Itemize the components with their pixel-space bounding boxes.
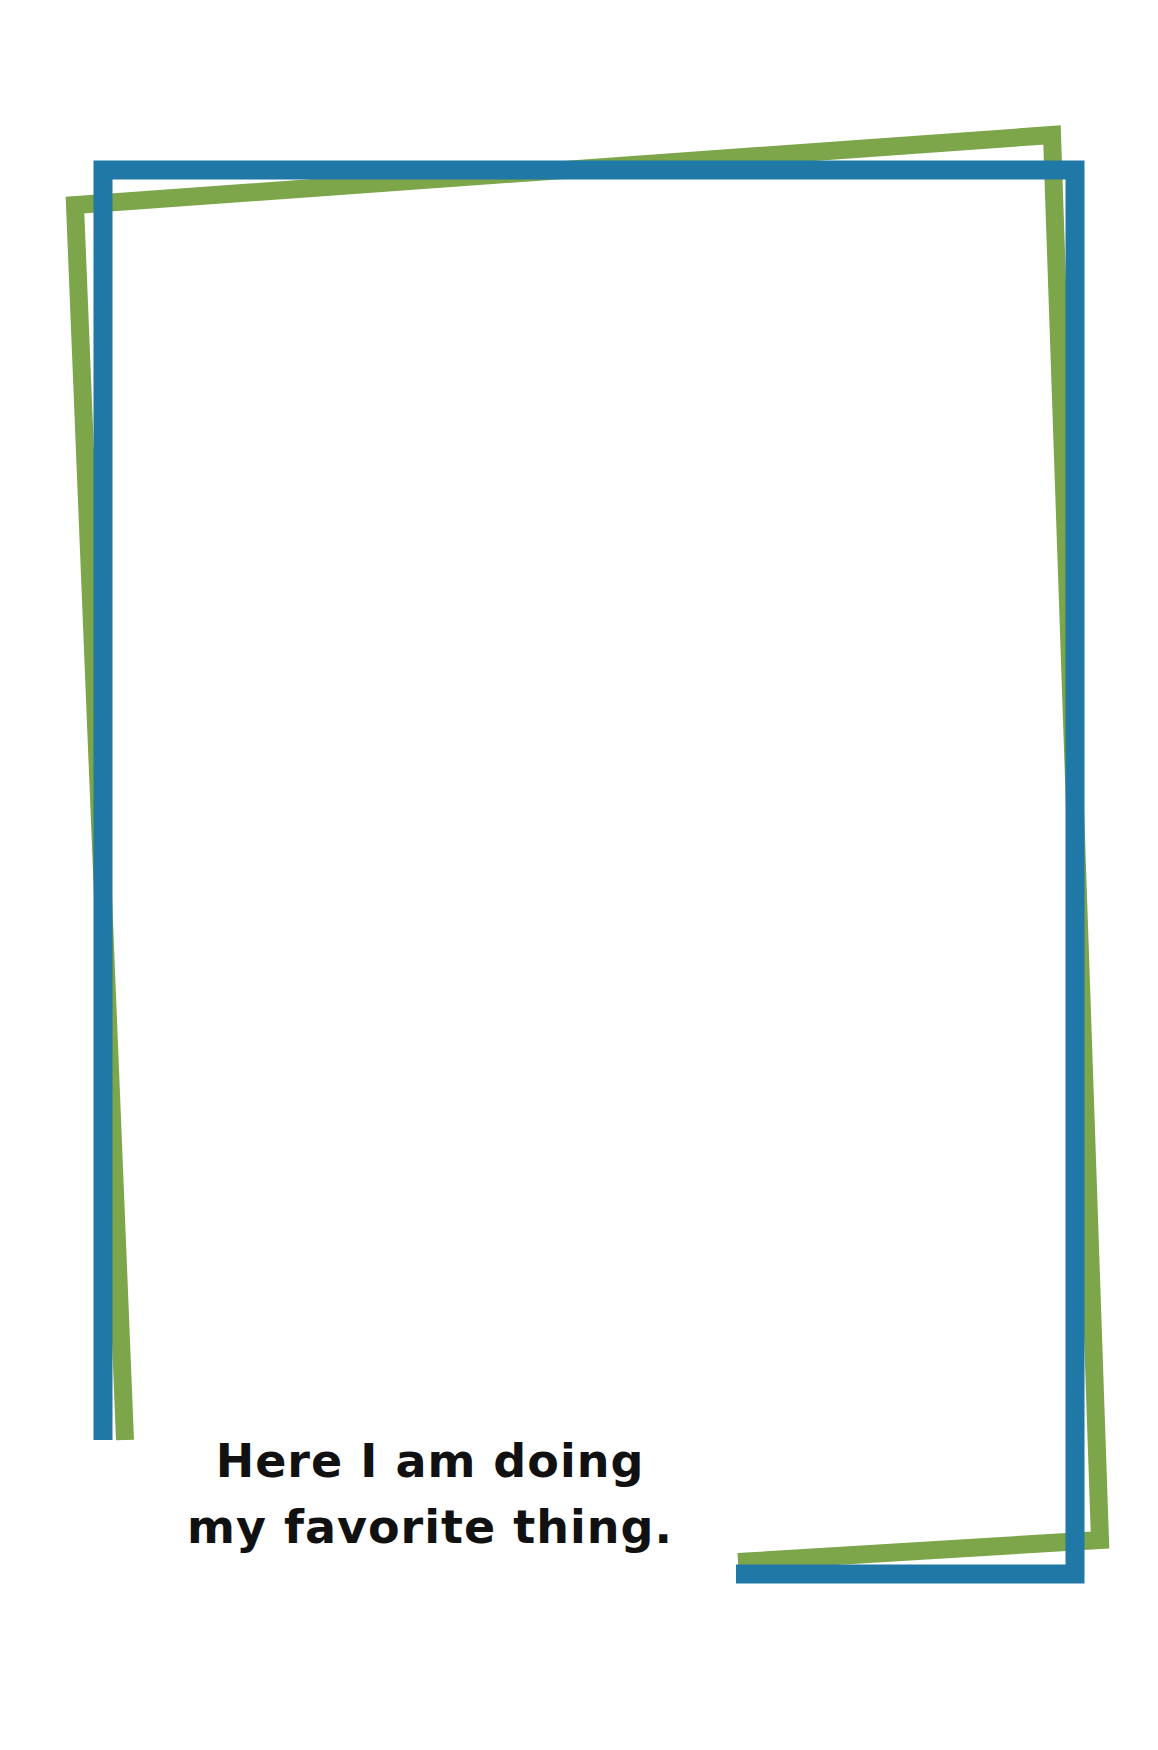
caption-line-1: Here I am doing	[150, 1428, 710, 1494]
green-frame	[75, 135, 1100, 1562]
caption: Here I am doing my favorite thing.	[150, 1428, 710, 1560]
caption-line-2: my favorite thing.	[150, 1494, 710, 1560]
worksheet-page: Here I am doing my favorite thing.	[0, 0, 1158, 1750]
blue-frame	[103, 170, 1075, 1574]
